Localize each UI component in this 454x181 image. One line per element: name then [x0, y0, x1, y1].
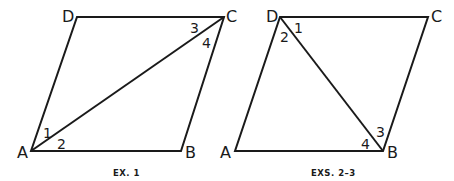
diagonal-ac [31, 17, 224, 151]
angle-label-2: 2 [280, 29, 289, 45]
vertex-label-c: C [431, 7, 442, 26]
vertex-label-c: C [226, 7, 237, 26]
vertex-label-d: D [62, 7, 74, 26]
angle-label-4: 4 [202, 35, 211, 51]
angle-label-2: 2 [57, 136, 66, 152]
diagram-canvas: D C A B 1 2 3 4 EX. 1 D C A B 1 2 3 4 EX… [0, 0, 454, 181]
vertex-label-a: A [220, 143, 231, 162]
figure-exs-2-3: D C A B 1 2 3 4 EXS. 2–3 [220, 7, 442, 178]
vertex-label-b: B [387, 143, 398, 162]
vertex-label-b: B [185, 143, 196, 162]
vertex-label-d: D [266, 7, 278, 26]
figure-caption: EXS. 2–3 [311, 168, 356, 178]
diagonal-db [280, 17, 383, 151]
angle-label-3: 3 [376, 124, 385, 140]
figure-ex-1: D C A B 1 2 3 4 EX. 1 [17, 7, 237, 178]
figure-caption: EX. 1 [113, 168, 140, 178]
angle-label-1: 1 [294, 20, 303, 36]
angle-label-3: 3 [190, 20, 199, 36]
angle-label-4: 4 [361, 136, 370, 152]
angle-label-1: 1 [43, 125, 52, 141]
vertex-label-a: A [17, 143, 28, 162]
